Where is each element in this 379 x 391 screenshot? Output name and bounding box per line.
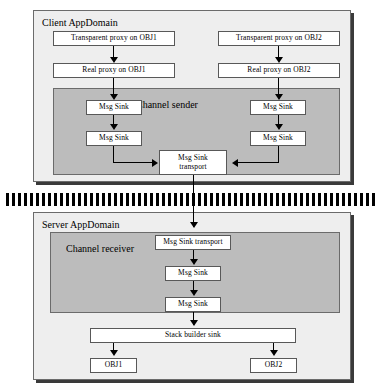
arrowhead-sink-right-1-to-2 [275, 124, 283, 130]
node-transparent-proxy-obj2: Transparent proxy on OBJ2 [218, 31, 340, 46]
arrowhead-boundary-to-server-transport [190, 222, 198, 228]
arrowhead-stackbuilder-to-obj2 [270, 350, 278, 356]
arrowhead-server-sink2-to-stackbuilder [190, 320, 198, 326]
channel-receiver-label: Channel receiver [66, 243, 134, 254]
node-client-sink-left-2: Msg Sink [86, 131, 142, 146]
arrowhead-sink-left-1-to-2 [110, 124, 118, 130]
node-client-sink-right-2: Msg Sink [250, 131, 306, 146]
arrowhead-sink-left-2-to-transport [152, 159, 158, 167]
node-client-sink-left-1: Msg Sink [86, 100, 142, 115]
node-transparent-proxy-obj1: Transparent proxy on OBJ1 [53, 31, 175, 46]
connector-sink-right-2-left [238, 162, 279, 163]
client-appdomain-label: Client AppDomain [42, 17, 118, 28]
node-server-sink-2: Msg Sink [165, 297, 221, 312]
node-stack-builder-sink: Stack builder sink [90, 328, 296, 343]
node-server-sink-1: Msg Sink [165, 266, 221, 281]
node-server-msg-sink-transport: Msg Sink transport [155, 235, 231, 250]
connector-sink-left-2-right [113, 162, 155, 163]
node-client-msg-sink-transport: Msg Sink transport [159, 150, 227, 175]
node-real-proxy-obj2: Real proxy on OBJ2 [218, 63, 340, 78]
node-real-proxy-obj1: Real proxy on OBJ1 [53, 63, 175, 78]
arrowhead-stackbuilder-to-obj1 [110, 350, 118, 356]
node-obj2: OBJ2 [250, 358, 297, 373]
channel-sender-label: Channel sender [136, 99, 198, 110]
connector-sink-left-2-down [113, 146, 114, 163]
client-transport-line2: transport [179, 163, 207, 172]
server-appdomain-label: Server AppDomain [42, 219, 120, 230]
appdomain-boundary-band [6, 193, 375, 206]
connector-client-transport-to-server [193, 175, 194, 227]
diagram-canvas: Client AppDomain Transparent proxy on OB… [0, 0, 379, 391]
node-obj1: OBJ1 [90, 358, 137, 373]
arrowhead-server-transport-to-sink1 [190, 259, 198, 265]
node-client-sink-right-1: Msg Sink [250, 100, 306, 115]
connector-sink-right-2-down [278, 146, 279, 163]
arrowhead-sink-right-2-to-transport [232, 159, 238, 167]
arrowhead-server-sink1-to-sink2 [190, 290, 198, 296]
